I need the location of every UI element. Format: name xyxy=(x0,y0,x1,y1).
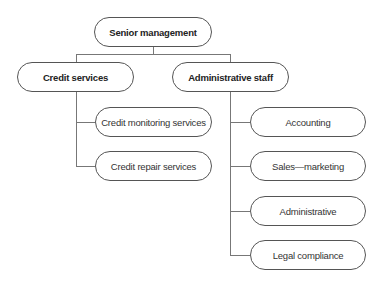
connector-sales-marketing xyxy=(230,166,250,167)
connector-admin-staff-down xyxy=(230,54,231,62)
connector-legal-compliance xyxy=(230,255,250,256)
node-credit-repair-services: Credit repair services xyxy=(95,151,212,181)
connector-level1-bar xyxy=(76,54,231,55)
node-accounting: Accounting xyxy=(250,107,366,137)
connector-credit-monitoring xyxy=(76,122,95,123)
connector-credit-repair xyxy=(76,166,95,167)
node-credit-monitoring-services: Credit monitoring services xyxy=(95,107,212,137)
connector-credit-services-trunk xyxy=(76,92,77,167)
connector-credit-services-down xyxy=(76,54,77,62)
node-legal-compliance: Legal compliance xyxy=(250,240,366,270)
connector-administrative xyxy=(230,211,250,212)
node-administrative: Administrative xyxy=(250,196,366,226)
node-credit-services: Credit services xyxy=(17,62,134,92)
node-administrative-staff: Administrative staff xyxy=(172,62,289,92)
connector-admin-staff-trunk xyxy=(230,92,231,256)
connector-accounting xyxy=(230,122,250,123)
connector-root-stub xyxy=(153,46,154,54)
node-sales-marketing: Sales—marketing xyxy=(250,151,366,181)
node-senior-management: Senior management xyxy=(94,17,212,47)
